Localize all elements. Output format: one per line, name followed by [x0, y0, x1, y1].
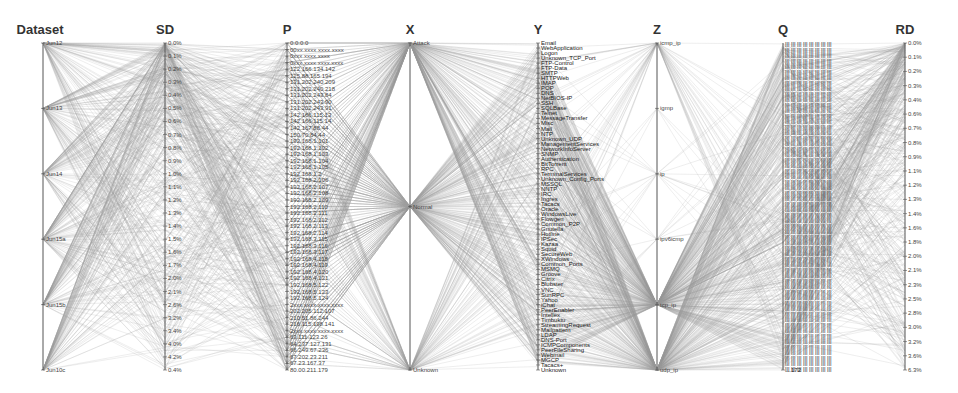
tick-label: 0.7% — [168, 132, 182, 138]
tick-label: udp_ip — [660, 367, 679, 373]
tick-label: 0.1% — [908, 54, 922, 60]
tick-label: 210.51.86.244 — [290, 315, 329, 321]
tick-label: 64.237.127.131 — [290, 341, 332, 347]
tick-label: ||| — [809, 366, 814, 372]
tick-label: 2.3% — [908, 282, 922, 288]
tick-label: 192.168.2.107 — [290, 184, 329, 190]
tick-label: 192.168.2.113 — [290, 223, 329, 229]
tick-label: igmp — [660, 105, 674, 111]
tick-label: 00xx.xxxx.xxxx.xxxx — [290, 47, 344, 53]
tick-label: Jun14 — [46, 171, 63, 177]
tick-label: Jun15b — [46, 302, 66, 308]
tick-label: 0.7% — [908, 125, 922, 131]
tick-label: 0.4% — [908, 97, 922, 103]
tick-label: 0.1% — [168, 53, 182, 59]
tick-label: 142.166.115.14 — [290, 118, 332, 124]
tick-label: 131.202.240.209 — [290, 79, 336, 85]
tick-label: 0xxx.xxxx.xxxx — [290, 53, 330, 59]
tick-label: 192.168.1.102 — [290, 145, 329, 151]
tick-label: 131.202.243.90 — [290, 99, 332, 105]
tick-label: 2.6% — [168, 302, 182, 308]
tick-label: 131.202.243.91 — [290, 105, 332, 111]
tick-label: 192.168.5.124 — [290, 295, 329, 301]
tick-label: icmp_ip — [660, 40, 681, 46]
tick-label: 192.168.1.105 — [290, 164, 329, 170]
tick-label: 1.2% — [168, 197, 182, 203]
tick-label: 66.249.67.236 — [290, 347, 329, 353]
tick-label: 3.2% — [908, 339, 922, 345]
tick-label: 0.9% — [168, 158, 182, 164]
tick-label: 0.4% — [168, 92, 182, 98]
tick-label: 1.6% — [908, 225, 922, 231]
tick-label: 192.168.3.116 — [290, 243, 329, 249]
tick-label: 192.168.1.103 — [290, 151, 329, 157]
tick-label: 0.3% — [168, 79, 182, 85]
tick-label: 192.168.4.118 — [290, 256, 329, 262]
tick-label: 80.00.211.179 — [290, 367, 329, 373]
tick-label: 192.168.2.114 — [290, 230, 329, 236]
tick-label: 1.7% — [168, 262, 182, 268]
tick-label: 192.168.2.108 — [290, 190, 329, 196]
tick-label: 1.3% — [908, 196, 922, 202]
tick-label: 2.5% — [908, 296, 922, 302]
tick-label: 192.168.3.117 — [290, 249, 329, 255]
tick-label: 67.23.167.37 — [290, 360, 326, 366]
tick-label: Unknown — [413, 367, 438, 373]
tick-label: Unknown — [541, 367, 566, 373]
axis-q: ||||||||||||||||||||||||||||||||||||||||… — [781, 41, 832, 373]
tick-label: ip — [660, 171, 665, 177]
tick-label: ipv6icmp — [660, 236, 684, 242]
tick-label: 142.167.88.44 — [290, 125, 329, 131]
tick-label: 4.2% — [168, 354, 182, 360]
tick-label: 0xxx.xxxx.xxxx.xxxx — [290, 60, 343, 66]
tick-label: Attack — [413, 40, 431, 46]
tick-label: 192.168.1.2 — [290, 171, 322, 177]
tick-label: 192.168.2.106 — [290, 177, 329, 183]
tick-label: 192.168.1.104 — [290, 158, 329, 164]
tick-label: 192.168.2.109 — [290, 197, 329, 203]
tick-label: Jun15a — [46, 236, 66, 242]
tick-label: 1.4% — [168, 223, 182, 229]
tick-label: ||| — [827, 366, 832, 372]
tick-label: 2.8% — [908, 310, 922, 316]
tick-label: 192.168.4.121 — [290, 275, 329, 281]
tick-label: 2xxx.xxxx.xxxx.xxxx — [290, 302, 343, 308]
tick-label: 1.0% — [168, 171, 182, 177]
tick-label: 63.111.123.26 — [290, 334, 328, 340]
tick-label: 192.168.5.122 — [290, 282, 329, 288]
tick-label: 202.205.112.107 — [290, 308, 335, 314]
tick-label: 1.3% — [168, 210, 182, 216]
tick-label: tcp_ip — [660, 302, 677, 308]
tick-label: 2.0% — [908, 253, 922, 259]
tick-label: 2.1% — [168, 289, 182, 295]
tick-label: 216.115.198.141 — [290, 321, 335, 327]
tick-label: 0.0% — [908, 40, 922, 46]
tick-label: 0.0.0.0 — [290, 40, 309, 46]
tick-label: 1.4% — [908, 211, 922, 217]
tick-label: 192.168.2.112 — [290, 217, 329, 223]
tick-label: 1.1% — [168, 184, 182, 190]
tick-label: 67.202.23.211 — [290, 354, 329, 360]
tick-label: 1.1% — [908, 168, 922, 174]
tick-label: 2.0% — [168, 275, 182, 281]
tick-label: 3.4% — [168, 328, 182, 334]
tick-label: 192.168.3.115 — [290, 236, 329, 242]
tick-label: 0.4% — [168, 367, 182, 373]
tick-label: Jun10c — [46, 367, 65, 373]
tick-label: 2.1% — [908, 267, 922, 273]
parallel-coordinates-chart: Jun12Jun13Jun14Jun15aJun15bJun10c0.0%0.1… — [0, 0, 958, 393]
tick-label: ...172 — [786, 367, 802, 373]
tick-label: 0.9% — [908, 154, 922, 160]
tick-label: 3.6% — [908, 353, 922, 359]
tick-label: 192.168.4.120 — [290, 269, 329, 275]
axis-rd: 0.0%0.1%0.2%0.3%0.4%0.6%0.7%0.8%0.9%1.1%… — [903, 40, 922, 373]
tick-label: 0.2% — [168, 66, 182, 72]
tick-label: 2xxx.xxxx.xxxx.xxxx — [290, 328, 343, 334]
tick-label: 192.168.2.110 — [290, 204, 329, 210]
tick-label: 1.5% — [168, 236, 182, 242]
tick-label: ||| — [803, 366, 808, 372]
tick-label: 131.202.243.84 — [290, 92, 332, 98]
tick-label: 1.2% — [908, 182, 922, 188]
tick-label: 0.2% — [908, 68, 922, 74]
tick-label: Jun12 — [46, 40, 63, 46]
